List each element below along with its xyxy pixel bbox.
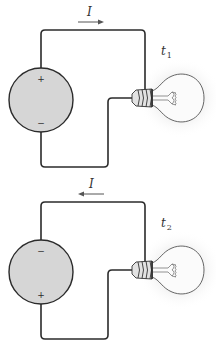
time-label: t1: [161, 44, 172, 60]
arrow-left-icon: [78, 192, 84, 197]
circuit-1: + − I t1: [9, 5, 216, 167]
battery-bottom-terminal: −: [37, 118, 45, 128]
current-label: I: [88, 177, 94, 191]
battery-top-terminal: +: [37, 74, 45, 84]
arrow-right-icon: [98, 20, 104, 25]
time-label: t2: [161, 216, 172, 232]
battery-top-terminal: −: [37, 246, 45, 256]
ac-circuit-diagram: + − I t1 − + I t2: [0, 0, 216, 345]
battery-bottom-terminal: +: [37, 290, 45, 300]
current-label: I: [86, 5, 92, 19]
circuit-2: − + I t2: [9, 177, 216, 339]
